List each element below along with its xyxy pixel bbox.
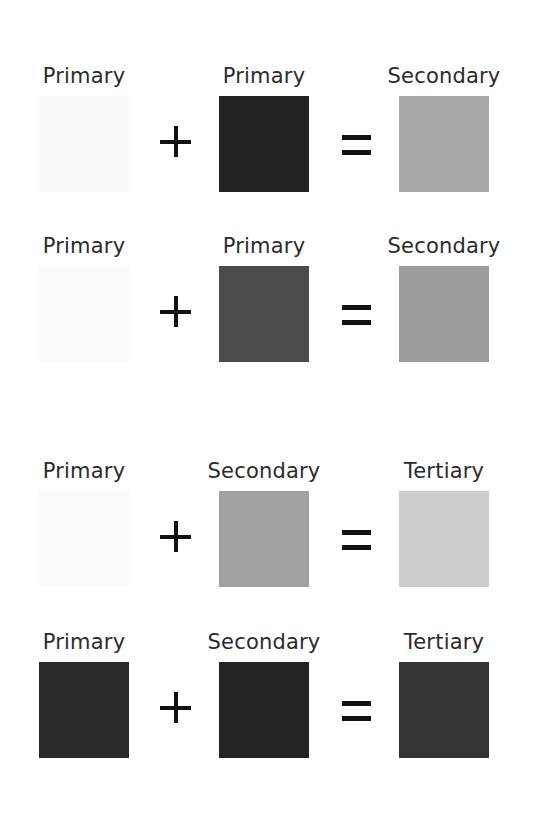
operand-2-label: Secondary (184, 457, 344, 485)
result-swatch (399, 491, 489, 587)
result-label: Secondary (364, 62, 524, 90)
result-label: Tertiary (364, 628, 524, 656)
operand-2-label: Primary (184, 232, 344, 260)
equation-row-4: Primary Secondary Tertiary (0, 628, 538, 768)
result-label: Secondary (364, 232, 524, 260)
equals-icon (341, 692, 373, 724)
operand-1-label: Primary (4, 628, 164, 656)
result-label: Tertiary (364, 457, 524, 485)
plus-icon (160, 126, 192, 158)
result-swatch (399, 96, 489, 192)
equals-icon (341, 521, 373, 553)
operand-1-label: Primary (4, 457, 164, 485)
operand-2-label: Primary (184, 62, 344, 90)
equation-row-3: Primary Secondary Tertiary (0, 457, 538, 597)
equals-icon (341, 296, 373, 328)
result-swatch (399, 662, 489, 758)
operand-2-swatch (219, 96, 309, 192)
plus-icon (160, 692, 192, 724)
operand-1-label: Primary (4, 232, 164, 260)
plus-icon (160, 296, 192, 328)
equals-icon (341, 126, 373, 158)
plus-icon (160, 521, 192, 553)
result-swatch (399, 266, 489, 362)
operand-1-swatch (39, 662, 129, 758)
operand-2-swatch (219, 491, 309, 587)
equation-row-2: Primary Primary Secondary (0, 232, 538, 372)
operand-2-swatch (219, 266, 309, 362)
operand-1-swatch (39, 266, 129, 362)
operand-1-swatch (39, 96, 129, 192)
operand-1-swatch (39, 491, 129, 587)
equation-row-1: Primary Primary Secondary (0, 62, 538, 202)
operand-1-label: Primary (4, 62, 164, 90)
operand-2-swatch (219, 662, 309, 758)
operand-2-label: Secondary (184, 628, 344, 656)
